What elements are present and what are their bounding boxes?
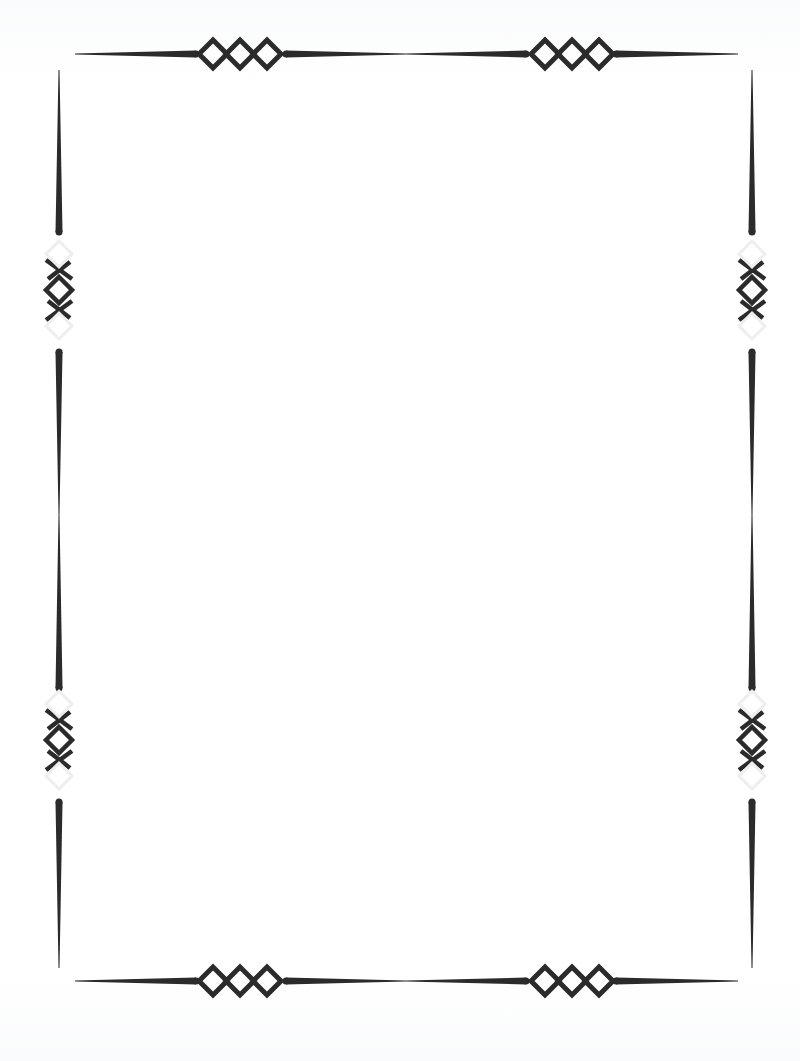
- left-bar-mid-bottom: [56, 515, 63, 688]
- top-bar-mid-left: [286, 51, 406, 58]
- left-bar-top: [56, 70, 63, 232]
- left-bar-bottom: [56, 802, 63, 968]
- right-bar-top: [749, 70, 756, 232]
- left-ornament-upper-diamond: [46, 277, 72, 303]
- left-ornament-lower-diamond: [46, 727, 72, 753]
- right-bar-top-cap: [749, 229, 756, 236]
- top-bar-right: [616, 51, 738, 58]
- top-bar-left: [75, 51, 196, 58]
- page: [0, 0, 800, 1061]
- right-bar-mid-top: [749, 352, 756, 515]
- right-bar-mid-bottom: [749, 515, 756, 688]
- bottom-bar-left: [75, 978, 196, 985]
- left-bar-mid-top: [56, 352, 63, 515]
- right-bar-mid-top-cap: [749, 349, 756, 356]
- left-bar-mid-top-cap: [56, 349, 63, 356]
- right-bar-bottom-cap: [749, 799, 756, 806]
- bottom-bar-mid-right: [406, 978, 526, 985]
- right-ornament-upper-diamond: [739, 277, 765, 303]
- decorative-border-frame: [0, 0, 800, 1061]
- right-ornament-lower-diamond: [739, 727, 765, 753]
- left-bar-top-cap: [56, 229, 63, 236]
- bottom-bar-right: [616, 978, 738, 985]
- bottom-bar-mid-left: [286, 978, 406, 985]
- top-bar-mid-right: [406, 51, 526, 58]
- right-bar-bottom: [749, 802, 756, 968]
- left-bar-bottom-cap: [56, 799, 63, 806]
